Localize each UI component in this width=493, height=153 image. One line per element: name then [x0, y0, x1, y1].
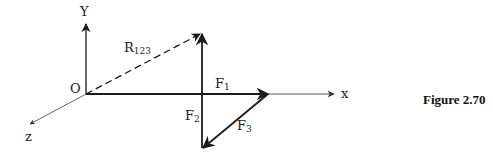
z-axis — [30, 94, 86, 124]
z-axis-label: z — [25, 129, 32, 144]
vector-r123 — [86, 34, 200, 94]
vector-f3 — [203, 94, 268, 148]
origin-label: O — [70, 81, 81, 96]
f2-label: F2 — [185, 108, 200, 124]
y-axis-label: Y — [79, 4, 89, 19]
figure-caption: Figure 2.70 — [423, 92, 486, 107]
x-axis-label: x — [341, 86, 349, 101]
r123-label: R123 — [124, 40, 151, 56]
f3-label: F3 — [237, 118, 252, 134]
force-vector-diagram: Y O z x R123 F1 F2 F3 Figure 2.70 — [0, 0, 493, 153]
f1-label: F1 — [215, 76, 230, 92]
